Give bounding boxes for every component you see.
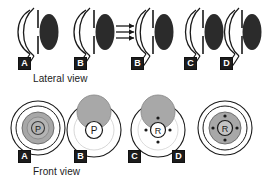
marker-dot-top-icon bbox=[156, 116, 159, 119]
panel-tag-front-b: B bbox=[74, 150, 87, 163]
front-panel-a: P bbox=[11, 101, 65, 155]
light-rays-group bbox=[116, 23, 134, 40]
lens-icon bbox=[243, 14, 262, 50]
panel-tag-front-a: A bbox=[18, 150, 31, 163]
marker-dot-right-icon bbox=[235, 126, 238, 129]
panel-tag-lateral-d: D bbox=[220, 57, 233, 70]
lens-icon bbox=[205, 14, 224, 50]
marker-dot-bottom-icon bbox=[223, 138, 226, 141]
lens-icon bbox=[155, 14, 174, 50]
pupil-letter: P bbox=[35, 124, 41, 134]
panel-tag-front-c: C bbox=[128, 150, 141, 163]
panel-tag-lateral-c: C bbox=[184, 57, 197, 70]
marker-dot-bottom-icon bbox=[156, 140, 159, 143]
pupil-letter: P bbox=[91, 125, 98, 136]
panel-tag-lateral-b1: B bbox=[74, 57, 87, 70]
marker-dot-left-icon bbox=[144, 128, 147, 131]
panel-tag-front-d: D bbox=[172, 150, 185, 163]
marker-dot-right-icon bbox=[168, 128, 171, 131]
front-view-caption: Front view bbox=[33, 166, 80, 177]
panel-tag-lateral-b2: B bbox=[131, 57, 144, 70]
marker-dot-top-icon bbox=[223, 114, 226, 117]
lens-icon bbox=[40, 14, 59, 50]
panel-tag-lateral-a: A bbox=[18, 57, 31, 70]
front-panel-d: R bbox=[198, 101, 252, 155]
lens-letter: R bbox=[222, 124, 229, 134]
lens-icon bbox=[96, 14, 115, 50]
lens-letter: R bbox=[155, 126, 162, 136]
lateral-view-caption: Lateral view bbox=[33, 73, 88, 84]
marker-dot-left-icon bbox=[211, 126, 214, 129]
